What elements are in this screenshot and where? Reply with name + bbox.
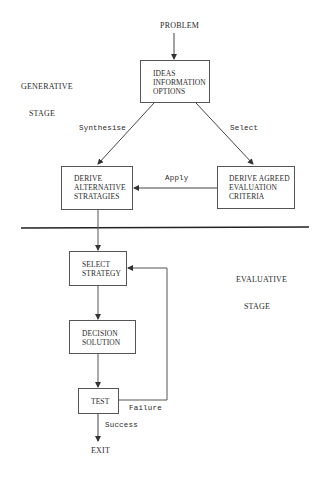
decision-solution-line-1: DECISION [82, 329, 120, 338]
design-process-diagram: PROBLEM GENERATIVE STAGE EVALUATIVE STAG… [0, 0, 324, 479]
derive-alternative-line-3: STRATAGIES [74, 192, 126, 201]
decision-solution-line-2: SOLUTION [82, 338, 120, 347]
derive-agreed-line-1: DERIVE AGREED [229, 174, 290, 183]
ideas-line-2: INFORMATION [153, 78, 206, 87]
success-label: Success [105, 421, 138, 430]
ideas-line-3: OPTIONS [153, 87, 206, 96]
select-label: Select [230, 124, 258, 133]
problem-label: PROBLEM [160, 21, 199, 30]
derive-agreed-criteria-node: DERIVE AGREED EVALUATION CRITERIA [217, 166, 295, 209]
evaluative-stage-label: EVALUATIVE STAGE [236, 257, 278, 329]
derive-alternative-line-1: DERIVE [74, 174, 126, 183]
synthesise-label: Synthesise [79, 124, 126, 133]
exit-label: EXIT [91, 446, 110, 455]
select-strategy-node: SELECT STRATEGY [69, 251, 127, 286]
apply-label: Apply [165, 174, 189, 183]
arrow-synthesise [98, 103, 154, 164]
derive-agreed-line-3: CRITERIA [229, 192, 290, 201]
ideas-line-1: IDEAS [153, 69, 206, 78]
arrow-select [196, 103, 253, 164]
generative-stage-line-2: STAGE [21, 109, 63, 118]
select-strategy-line-1: SELECT [82, 260, 121, 269]
derive-alternative-node: DERIVE ALTERNATIVE STRATAGIES [61, 166, 133, 210]
decision-solution-node: DECISION SOLUTION [69, 320, 136, 354]
derive-agreed-line-2: EVALUATION [229, 183, 290, 192]
failure-label: Failure [129, 404, 162, 413]
evaluative-stage-line-1: EVALUATIVE [236, 275, 278, 284]
select-strategy-line-2: STRATEGY [82, 269, 121, 278]
evaluative-stage-line-2: STAGE [236, 302, 278, 311]
generative-stage-line-1: GENERATIVE [21, 82, 63, 91]
ideas-node: IDEAS INFORMATION OPTIONS [140, 60, 210, 103]
test-line-1: TEST [91, 397, 109, 406]
derive-alternative-line-2: ALTERNATIVE [74, 183, 126, 192]
stage-divider [21, 227, 309, 228]
test-node: TEST [78, 388, 119, 414]
generative-stage-label: GENERATIVE STAGE [21, 64, 63, 136]
